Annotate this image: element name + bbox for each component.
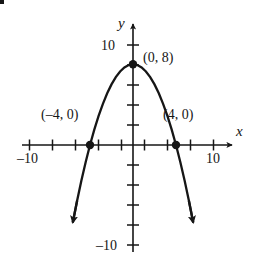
point-x-intercept-4-0 — [172, 141, 180, 149]
y-tick-label-neg10: –10 — [96, 239, 117, 253]
point-vertex-0-8 — [129, 60, 137, 68]
annotation-left-root: (–4, 0) — [41, 108, 78, 122]
y-axis-label: y — [118, 16, 125, 31]
y-tick-label-10: 10 — [101, 39, 115, 53]
x-tick-label-neg10: –10 — [17, 152, 38, 166]
point-x-intercept-neg4-0 — [86, 141, 94, 149]
parabola-right-arrow — [189, 201, 193, 223]
coordinate-plane-svg — [0, 0, 260, 264]
annotation-right-root: (4, 0) — [163, 108, 193, 122]
x-tick-label-10: 10 — [206, 152, 220, 166]
annotation-vertex: (0, 8) — [143, 51, 173, 65]
parabola-left-arrow — [73, 201, 77, 223]
x-axis-label: x — [236, 124, 243, 139]
parabola-figure: y x 10 –10 –10 10 (0, 8) (–4, 0) (4, 0) — [0, 0, 260, 264]
